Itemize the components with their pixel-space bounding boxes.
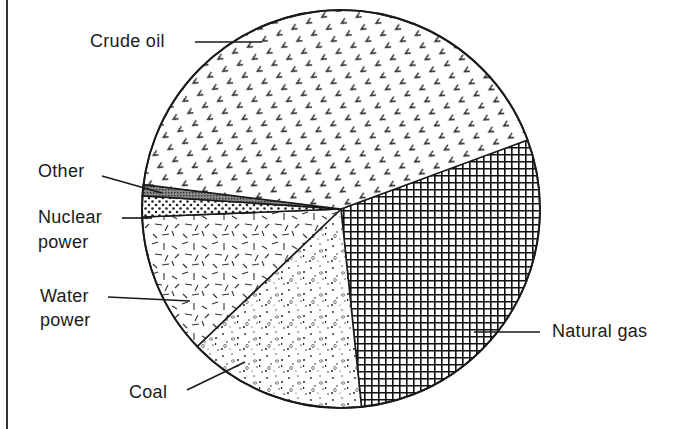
label-water-line2: power [40,308,91,332]
label-nuclear-line2: power [38,230,89,254]
label-natural-gas: Natural gas [552,319,647,343]
label-water-line1: Water [40,284,89,308]
label-crude-oil: Crude oil [90,29,165,53]
label-nuclear-line1: Nuclear [38,205,102,229]
pie-chart [0,0,697,429]
pie-slices [142,10,540,408]
label-coal: Coal [129,380,167,404]
label-other: Other [38,159,85,183]
